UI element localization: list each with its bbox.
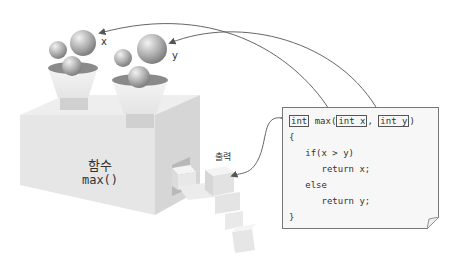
- function-title: 함수: [60, 155, 140, 174]
- function-name: max(): [60, 173, 140, 187]
- page-fold-icon: [427, 217, 439, 229]
- code-line: {: [289, 132, 294, 142]
- output-label: 출력: [215, 150, 231, 163]
- arrow-param-y: [170, 32, 380, 114]
- input-y-label: y: [172, 50, 178, 61]
- code-line: else: [289, 180, 327, 190]
- code-text: int max(int x, int y) { if(x > y) return…: [289, 113, 415, 225]
- code-line: return x;: [289, 164, 370, 174]
- code-line: }: [289, 212, 294, 222]
- code-listing: int max(int x, int y) { if(x > y) return…: [282, 107, 439, 229]
- return-type: int: [289, 115, 309, 127]
- arrow-return: [232, 118, 282, 176]
- function-signature-name: max(: [315, 116, 337, 126]
- code-line: return y;: [289, 196, 370, 206]
- param-x: int x: [336, 115, 367, 127]
- param-y: int y: [378, 115, 409, 127]
- input-x-label: x: [101, 36, 107, 47]
- output-blocks: [172, 165, 256, 253]
- code-line: if(x > y): [289, 148, 354, 158]
